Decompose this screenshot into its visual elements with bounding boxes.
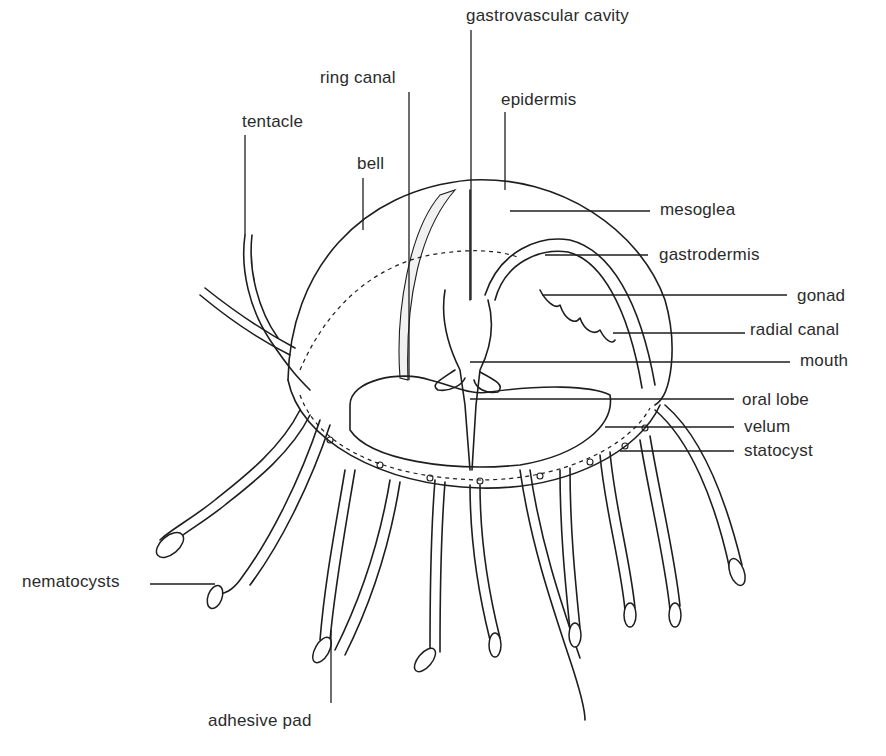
label-nematocysts: nematocysts <box>22 572 120 592</box>
label-gonad: gonad <box>797 286 845 306</box>
tentacles <box>160 235 742 720</box>
jellyfish-diagram: gastrovascular cavity ring canal epiderm… <box>0 0 886 756</box>
velum-opening <box>350 376 610 467</box>
oral-lobes <box>435 370 500 392</box>
jellyfish-illustration <box>0 0 886 756</box>
label-mouth: mouth <box>800 351 848 371</box>
label-bell: bell <box>357 154 384 174</box>
manubrium <box>444 190 492 470</box>
adhesive-pads <box>152 528 748 675</box>
label-tentacle: tentacle <box>242 112 303 132</box>
label-adhesive-pad: adhesive pad <box>208 711 312 731</box>
label-oral-lobe: oral lobe <box>742 390 809 410</box>
label-velum: velum <box>744 417 790 437</box>
label-ring-canal: ring canal <box>320 68 396 88</box>
label-statocyst: statocyst <box>744 441 813 461</box>
label-epidermis: epidermis <box>501 90 577 110</box>
gonad-shape <box>540 290 615 342</box>
label-gastrovascular-cavity: gastrovascular cavity <box>466 6 629 26</box>
label-mesoglea: mesoglea <box>660 200 735 220</box>
radial-canal-outer <box>485 239 655 385</box>
label-radial-canal: radial canal <box>750 320 839 340</box>
label-gastrodermis: gastrodermis <box>659 245 760 265</box>
ring-canal-stipple <box>399 190 455 380</box>
